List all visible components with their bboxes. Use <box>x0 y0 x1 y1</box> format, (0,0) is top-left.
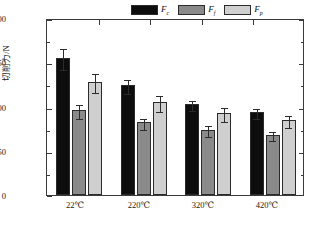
y-minor-tick-175 <box>47 42 50 43</box>
error-bar-stem-Ff-320℃ <box>208 126 209 137</box>
y-major-tick-0 <box>47 196 52 197</box>
bar-Fc-220℃ <box>121 85 135 195</box>
error-bar-cap-lower-Fc-320℃ <box>189 111 196 112</box>
error-bar-stem-Fp-22℃ <box>95 74 96 93</box>
y-minor-tick-125 <box>47 86 50 87</box>
error-bar-cap-upper-Fc-320℃ <box>189 101 196 102</box>
x-major-tick-top-3 <box>202 20 203 25</box>
error-bar-stem-Fc-420℃ <box>257 109 258 120</box>
x-tick-label-22c: 22℃ <box>40 200 110 210</box>
x-tick-label-420c: 420℃ <box>232 200 302 210</box>
y-minor-tick-75 <box>47 131 50 132</box>
error-bar-stem-Fc-320℃ <box>192 101 193 112</box>
error-bar-stem-Fp-320℃ <box>224 108 225 122</box>
y-minor-tick-right-125 <box>301 86 304 87</box>
error-bar-cap-lower-Fc-22℃ <box>60 70 67 71</box>
x-tick-label-320c: 320℃ <box>168 200 238 210</box>
legend: Fc Ff Fp <box>131 5 263 16</box>
bar-Ff-420℃ <box>266 135 280 195</box>
error-bar-stem-Ff-220℃ <box>144 119 145 130</box>
error-bar-cap-lower-Fc-420℃ <box>253 119 260 120</box>
legend-label-ff-sub: f <box>214 10 216 16</box>
error-bar-cap-upper-Fc-220℃ <box>124 80 131 81</box>
error-bar-cap-lower-Fp-22℃ <box>92 93 99 94</box>
y-minor-tick-right-175 <box>301 42 304 43</box>
error-bar-cap-lower-Ff-420℃ <box>269 141 276 142</box>
y-major-tick-50 <box>47 153 52 154</box>
x-tick-label-220c: 220℃ <box>104 200 174 210</box>
plot-area <box>46 19 304 196</box>
legend-swatch-fp <box>224 5 251 15</box>
bar-Ff-320℃ <box>201 130 215 195</box>
error-bar-cap-upper-Fp-320℃ <box>221 108 228 109</box>
legend-entry-ff: Ff <box>178 5 215 16</box>
error-bar-cap-upper-Fc-22℃ <box>60 49 67 50</box>
x-major-tick-top-2 <box>150 20 151 25</box>
legend-label-fp: Fp <box>254 5 263 16</box>
error-bar-cap-lower-Ff-320℃ <box>205 137 212 138</box>
y-tick-label-50: 50 <box>0 148 6 157</box>
y-tick-label-100: 100 <box>0 103 6 112</box>
legend-entry-fc: Fc <box>131 5 169 16</box>
y-tick-label-200: 200 <box>0 15 6 24</box>
error-bar-stem-Fp-420℃ <box>289 116 290 128</box>
bar-Fp-420℃ <box>282 120 296 195</box>
legend-label-fc-sub: c <box>167 10 170 16</box>
y-major-tick-200 <box>47 20 52 21</box>
y-major-tick-right-100 <box>299 109 304 110</box>
legend-label-ff: Ff <box>208 5 215 16</box>
bar-chart-figure: 切削力/N 200 150 100 50 0 22℃ 220℃ 320℃ 420… <box>0 0 314 226</box>
error-bar-cap-upper-Ff-320℃ <box>205 126 212 127</box>
bar-Fc-22℃ <box>56 58 70 195</box>
x-major-tick-top-1 <box>99 20 100 25</box>
x-major-tick-top-4 <box>253 20 254 25</box>
error-bar-stem-Fc-22℃ <box>63 49 64 70</box>
bar-Ff-220℃ <box>137 122 151 195</box>
y-major-tick-150 <box>47 64 52 65</box>
error-bar-cap-upper-Fp-220℃ <box>156 96 163 97</box>
legend-swatch-fc <box>131 5 158 15</box>
y-tick-label-0: 0 <box>0 192 6 201</box>
error-bar-stem-Ff-420℃ <box>273 132 274 141</box>
error-bar-cap-lower-Ff-220℃ <box>140 130 147 131</box>
bar-Fp-320℃ <box>217 113 231 195</box>
legend-label-fc: Fc <box>161 5 169 16</box>
bar-Fp-220℃ <box>153 102 167 195</box>
error-bar-cap-upper-Ff-220℃ <box>140 119 147 120</box>
error-bar-stem-Fc-220℃ <box>128 80 129 94</box>
bar-Ff-22℃ <box>72 110 86 195</box>
legend-entry-fp: Fp <box>224 5 263 16</box>
legend-label-fp-sub: p <box>260 10 263 16</box>
error-bar-cap-lower-Fc-220℃ <box>124 94 131 95</box>
bar-Fc-320℃ <box>185 104 199 195</box>
error-bar-cap-upper-Ff-420℃ <box>269 132 276 133</box>
error-bar-cap-lower-Fp-320℃ <box>221 122 228 123</box>
error-bar-cap-lower-Fp-220℃ <box>156 112 163 113</box>
bar-Fp-22℃ <box>88 82 102 195</box>
error-bar-cap-upper-Ff-22℃ <box>76 105 83 106</box>
y-minor-tick-right-25 <box>301 175 304 176</box>
y-tick-label-150: 150 <box>0 59 6 68</box>
y-major-tick-100 <box>47 109 52 110</box>
error-bar-cap-upper-Fp-22℃ <box>92 74 99 75</box>
error-bar-cap-upper-Fc-420℃ <box>253 109 260 110</box>
y-minor-tick-right-75 <box>301 131 304 132</box>
error-bar-cap-lower-Fp-420℃ <box>285 128 292 129</box>
bar-Fc-420℃ <box>250 112 264 195</box>
y-major-tick-right-150 <box>299 64 304 65</box>
error-bar-stem-Ff-22℃ <box>79 105 80 119</box>
y-major-tick-right-200 <box>299 20 304 21</box>
error-bar-cap-upper-Fp-420℃ <box>285 116 292 117</box>
legend-swatch-ff <box>178 5 205 15</box>
error-bar-stem-Fp-220℃ <box>160 96 161 112</box>
y-major-tick-right-50 <box>299 153 304 154</box>
y-minor-tick-25 <box>47 175 50 176</box>
error-bar-cap-lower-Ff-22℃ <box>76 119 83 120</box>
